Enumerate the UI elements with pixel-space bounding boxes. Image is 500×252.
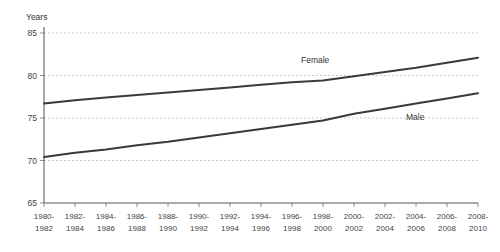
x-tick-label-12: 2004-2006 — [406, 212, 427, 233]
x-tick-label-5: 1990-1992 — [189, 212, 210, 233]
data-line-female — [44, 58, 478, 104]
data-line-male — [44, 93, 478, 157]
x-tick-label-2: 1984-1986 — [96, 212, 117, 233]
series-label-male: Male — [406, 112, 425, 122]
life-expectancy-line-chart: 8580757065Years1980-19821982-19841984-19… — [0, 0, 500, 252]
x-tick-label-1: 1982-1984 — [65, 212, 86, 233]
series-label-female: Female — [301, 55, 330, 65]
x-tick-label-13: 2006-2008 — [437, 212, 458, 233]
x-tick-label-6: 1992-1994 — [220, 212, 241, 233]
x-tick-label-10: 2000-2002 — [344, 212, 365, 233]
chart-canvas: 8580757065Years1980-19821982-19841984-19… — [0, 0, 500, 252]
y-axis-title: Years — [26, 12, 47, 22]
x-tick-label-3: 1986-1988 — [127, 212, 148, 233]
x-tick-label-9: 1998-2000 — [313, 212, 334, 233]
x-tick-label-0: 1980-1982 — [34, 212, 55, 233]
x-tick-label-11: 2002-2004 — [375, 212, 396, 233]
x-tick-label-8: 1996-1998 — [282, 212, 303, 233]
x-tick-label-14: 2008-2010 — [468, 212, 489, 233]
x-tick-label-4: 1988-1990 — [158, 212, 179, 233]
x-tick-label-7: 1994-1996 — [251, 212, 272, 233]
y-tick-label-80: 80 — [28, 71, 38, 81]
y-tick-label-70: 70 — [28, 156, 38, 166]
y-tick-label-65: 65 — [28, 198, 38, 208]
y-tick-label-75: 75 — [28, 113, 38, 123]
y-tick-label-85: 85 — [28, 28, 38, 38]
